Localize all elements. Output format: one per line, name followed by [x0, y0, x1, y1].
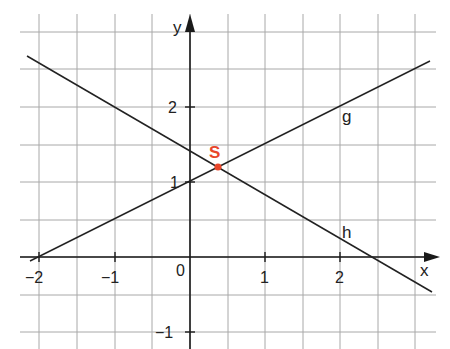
y-axis-arrow-icon [185, 14, 195, 32]
line-g [30, 61, 430, 261]
y-tick-label-neg1: −1 [155, 324, 173, 341]
x-tick-label-neg2: −2 [25, 269, 43, 286]
y-tick-label-1: 1 [170, 174, 179, 191]
x-tick-label-1: 1 [260, 269, 269, 286]
grid [20, 14, 436, 349]
y-tick-label-2: 2 [168, 99, 177, 116]
origin-label: 0 [176, 262, 185, 279]
x-tick-label-2: 2 [335, 269, 344, 286]
intersection-point-s [214, 163, 221, 170]
x-tick-label-neg1: −1 [101, 269, 119, 286]
y-axis-label: y [173, 18, 182, 37]
x-axis-label: x [420, 261, 429, 280]
line-h-label: h [342, 223, 351, 242]
point-s-label: S [209, 143, 220, 162]
line-g-label: g [342, 107, 351, 126]
coordinate-plot: S g h x y 0 −2 −1 1 2 2 1 −1 [0, 0, 450, 349]
